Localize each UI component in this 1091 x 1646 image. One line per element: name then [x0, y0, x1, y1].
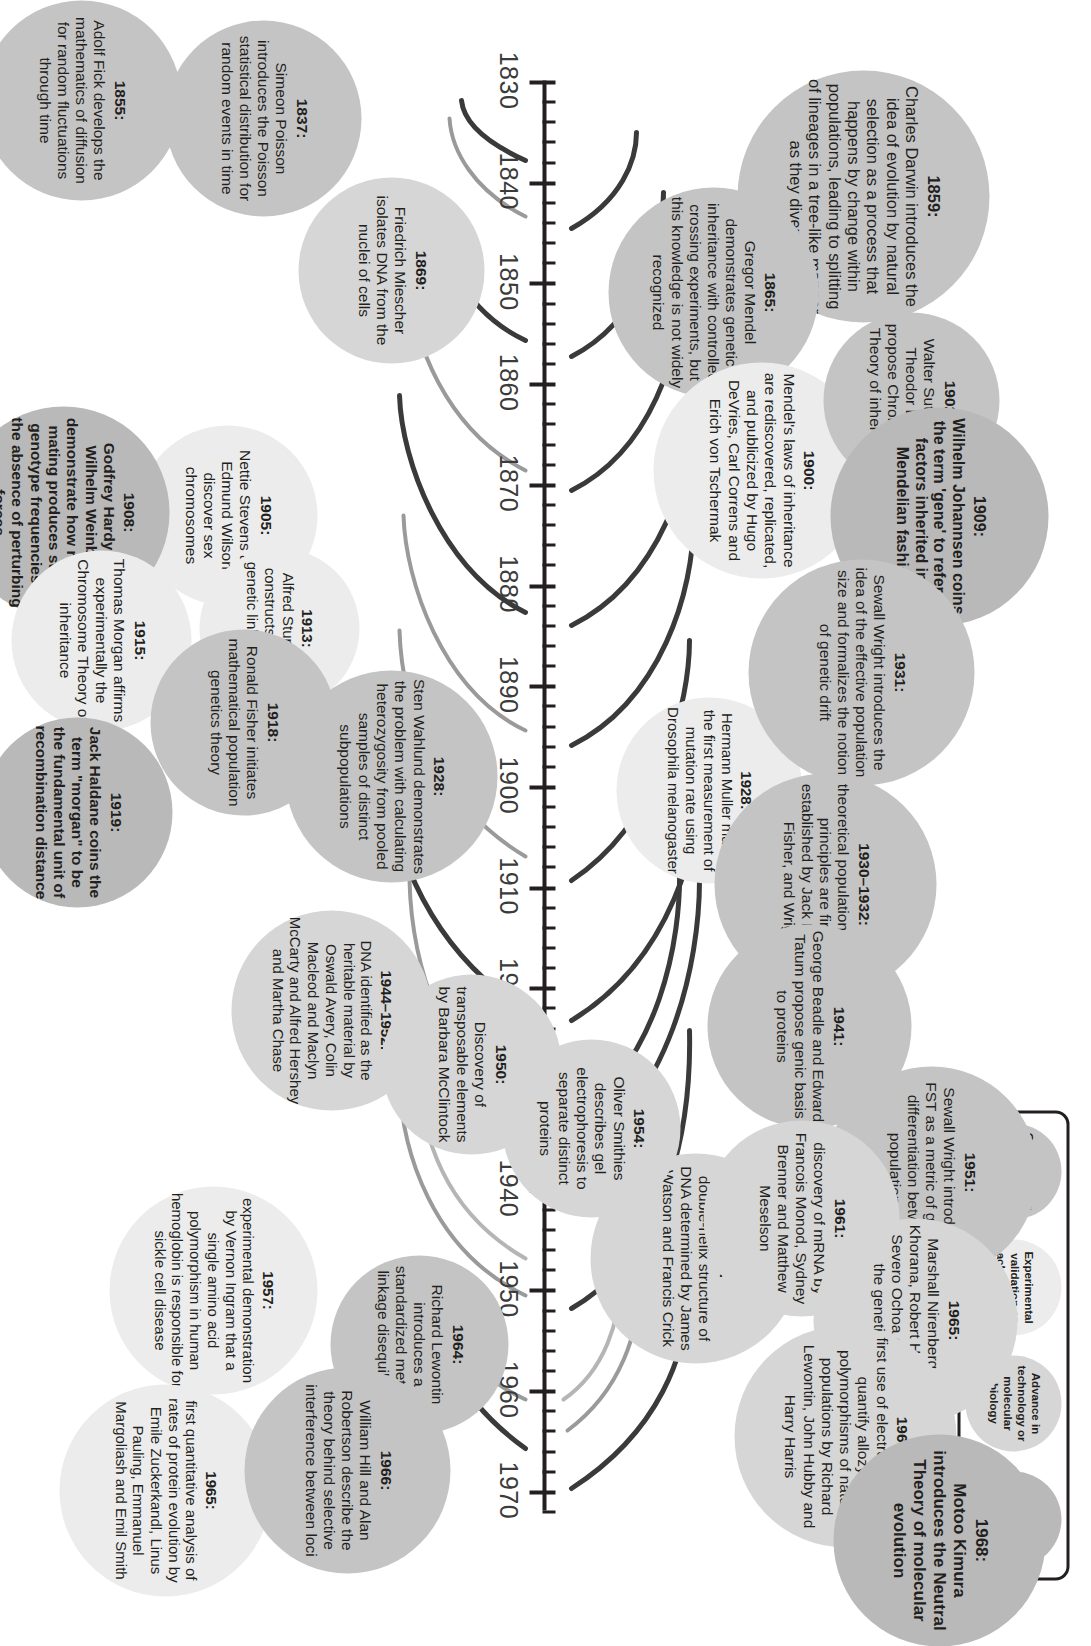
event-year-label: 1964:: [447, 1261, 465, 1427]
axis-tick-minor: [542, 402, 555, 405]
axis-tick-major: [529, 1389, 555, 1393]
timeline-axis: 1830184018501860187018801890190019101920…: [542, 80, 546, 1510]
axis-tick-minor: [542, 342, 555, 345]
axis-tick-minor: [542, 1329, 555, 1332]
axis-tick-minor: [542, 745, 555, 748]
axis-tick-minor: [542, 463, 555, 466]
event-text: Motoo Kimura introduces the Neutral Theo…: [888, 1440, 968, 1640]
event-year-label: 1965:: [943, 1224, 961, 1416]
event-bubble-content: 1837:Simeon Poisson introduces the Poiss…: [216, 26, 309, 210]
axis-year-label: 1900: [493, 756, 522, 814]
event-year-label: 1966:: [375, 1373, 393, 1567]
event-text: Gregor Mendel demonstrates genetic inher…: [648, 193, 758, 391]
axis-tick-minor: [542, 765, 555, 768]
event-bubble-content: 1941:George Beadle and Edward Tatum prop…: [771, 930, 846, 1122]
event-year-label: 1957:: [258, 1192, 276, 1388]
event-text: Discovery of transposable elements by Ba…: [433, 980, 488, 1148]
event-bubble: 1919:Jack Haldane coins the term "morgan…: [0, 717, 172, 907]
axis-tick-minor: [542, 302, 555, 305]
event-bubble-content: 1928:Sten Wahlund demonstrates the probl…: [335, 676, 447, 876]
axis-year-label: 1910: [493, 857, 522, 915]
axis-tick-major: [529, 382, 555, 386]
event-year-label: 1865:: [760, 193, 778, 391]
event-text: DNA identified as the heritable material…: [268, 916, 374, 1104]
event-bubble: 1954:Oliver Smithies describes gel elect…: [502, 1039, 680, 1217]
axis-year-label: 1860: [493, 353, 522, 411]
event-year-label: 1941:: [828, 930, 846, 1122]
event-year-label: 1909:: [968, 413, 987, 619]
axis-tick-minor: [542, 362, 555, 365]
event-text: Ronald Fisher initiates mathematical pop…: [205, 635, 260, 809]
axis-tick-minor: [542, 725, 555, 728]
event-year-label: 1859:: [922, 76, 941, 316]
axis-tick-minor: [542, 906, 555, 909]
event-bubble-content: 1931:Sewall Wright introduces the idea o…: [814, 565, 907, 779]
axis-tick-minor: [542, 1228, 555, 1231]
event-bubble: 1837:Simeon Poisson introduces the Poiss…: [165, 20, 361, 216]
axis-tick-minor: [542, 322, 555, 325]
event-text: Thomas Morgan affirms experimentally the…: [54, 556, 127, 724]
axis-tick-minor: [542, 966, 555, 969]
axis-tick-minor: [542, 1450, 555, 1453]
axis-tick-minor: [542, 1248, 555, 1251]
axis-tick-minor: [542, 1349, 555, 1352]
axis-tick-minor: [542, 523, 555, 526]
axis-tick-minor: [542, 1470, 555, 1473]
axis-year-label: 1890: [493, 655, 522, 713]
axis-tick-minor: [542, 1309, 555, 1312]
axis-year-label: 1970: [493, 1461, 522, 1519]
axis-tick-minor: [542, 563, 555, 566]
event-text: Jack Haldane coins the term "morgan" to …: [30, 723, 103, 901]
axis-tick-major: [529, 986, 555, 990]
axis-tick-minor: [542, 140, 555, 143]
event-bubble-content: 1900:Mendel's laws of inheritance are re…: [705, 368, 817, 572]
event-year-label: 1855:: [109, 6, 127, 194]
event-bubble: 1928:Sten Wahlund demonstrates the probl…: [285, 670, 497, 882]
axis-tick-minor: [542, 543, 555, 546]
event-bubble: 1965:first quantitative analysis of rate…: [59, 1384, 271, 1596]
axis-tick-minor: [542, 100, 555, 103]
event-year-label: 1968:: [970, 1440, 990, 1640]
axis-tick-major: [529, 483, 555, 487]
event-text: Sten Wahlund demonstrates the problem wi…: [335, 676, 426, 876]
axis-tick-major: [529, 886, 555, 890]
event-bubble-content: 1966:William Hill and Alan Robertson des…: [300, 1373, 393, 1567]
event-bubble-content: 1950:Discovery of transposable elements …: [433, 980, 508, 1148]
axis-tick-minor: [542, 201, 555, 204]
event-year-label: 1837:: [291, 26, 309, 210]
axis-tick-minor: [542, 1409, 555, 1412]
axis-tick-minor: [542, 805, 555, 808]
axis-tick-minor: [542, 241, 555, 244]
event-year-label: 1915:: [129, 556, 147, 724]
axis-tick-minor: [542, 704, 555, 707]
event-bubble-content: 1968:Motoo Kimura introduces the Neutral…: [888, 1440, 990, 1640]
axis-tick-minor: [542, 261, 555, 264]
event-text: Sewall Wright introduces the idea of the…: [814, 565, 887, 779]
event-year-label: 1918:: [262, 635, 280, 809]
axis-tick-major: [529, 1288, 555, 1292]
event-bubble: 1957:experimental demonstration by Verno…: [109, 1186, 317, 1394]
event-text: first quantitative analysis of rates of …: [111, 1390, 199, 1590]
axis-tick-minor: [542, 865, 555, 868]
event-year-label: 1965:: [201, 1390, 219, 1590]
event-bubble-content: 1957:experimental demonstration by Verno…: [150, 1192, 276, 1388]
event-year-label: 1919:: [105, 723, 123, 901]
event-bubble-content: 1869:Friedrich Miescher isolates DNA fro…: [353, 183, 428, 357]
event-text: discovery of mRNA by Francois Monod, Syd…: [754, 1126, 827, 1310]
event-text: George Beadle and Edward Tatum propose g…: [771, 930, 826, 1122]
axis-tick-minor: [542, 221, 555, 224]
event-text: William Hill and Alan Robertson describe…: [300, 1373, 373, 1567]
axis-tick-minor: [542, 644, 555, 647]
event-text: Oliver Smithies describes gel electropho…: [535, 1045, 626, 1211]
axis-tick-minor: [542, 422, 555, 425]
event-year-label: 1900:: [799, 368, 817, 572]
axis-tick-minor: [542, 443, 555, 446]
axis-tick-major: [529, 281, 555, 285]
axis-tick-minor: [542, 845, 555, 848]
axis-tick-minor: [542, 503, 555, 506]
axis-year-label: 1850: [493, 253, 522, 311]
axis-tick-minor: [542, 1268, 555, 1271]
event-text: double-helix structure of DNA determined…: [657, 1159, 712, 1357]
event-bubble: 1855:Adolf Fick develops the mathematics…: [0, 0, 181, 200]
